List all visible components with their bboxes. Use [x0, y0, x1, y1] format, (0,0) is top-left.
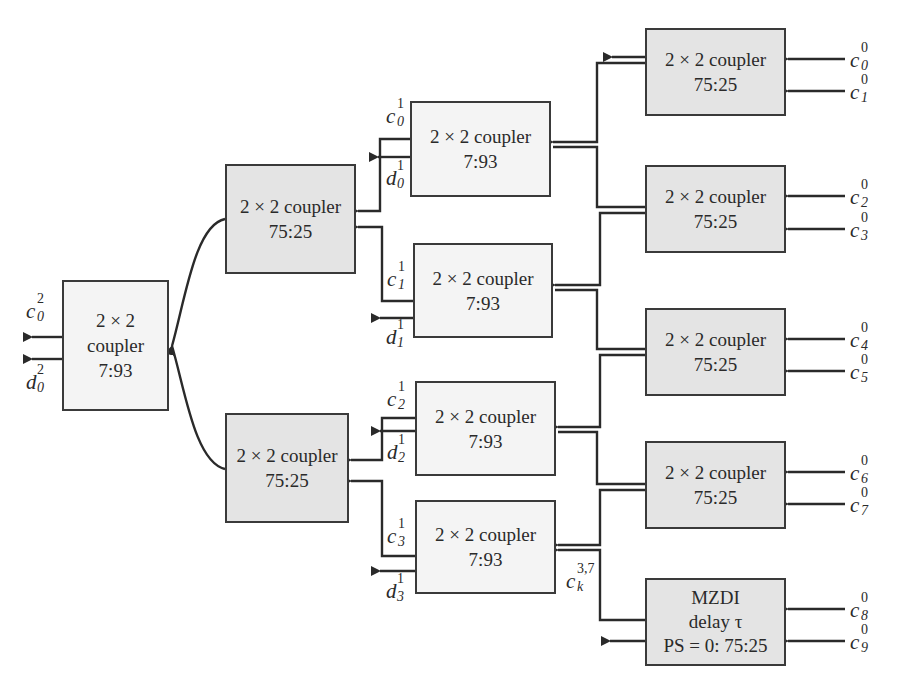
label-c3-1: c13: [387, 526, 396, 547]
label-c4-0: c04: [850, 330, 859, 351]
label-c1-1: c11: [387, 269, 396, 290]
box-line: 2 × 2 coupler: [665, 327, 766, 352]
box-line: 7:93: [469, 547, 503, 572]
label-ck-3-7: c3,7k: [566, 571, 575, 592]
label-c2-0: c02: [850, 187, 859, 208]
box-line: 2 × 2 coupler: [435, 522, 536, 547]
stage0-coupler-0: 2 × 2 coupler 75:25: [645, 28, 786, 116]
box-line: 2 × 2 coupler: [435, 404, 536, 429]
box-line: 75:25: [694, 485, 737, 510]
final-coupler-7-93: 2 × 2 coupler 7:93: [62, 280, 169, 411]
label-c7-0: c07: [850, 495, 859, 516]
box-line: 75:25: [694, 352, 737, 377]
box-line: 7:93: [99, 358, 133, 383]
label-c9-0: c09: [850, 632, 859, 653]
box-line: 2 × 2 coupler: [237, 443, 338, 468]
label-d1-1: d11: [386, 327, 397, 348]
stage1-coupler-0: 2 × 2 coupler 7:93: [410, 101, 551, 197]
box-line: 7:93: [469, 429, 503, 454]
label-c0-2: c20: [26, 301, 35, 322]
box-line: MZDI: [691, 586, 740, 610]
label-d0-1: d10: [386, 168, 397, 189]
stage0-coupler-1: 2 × 2 coupler 75:25: [645, 165, 786, 253]
box-line: 7:93: [464, 149, 498, 174]
label-c5-0: c05: [850, 362, 859, 383]
box-line: PS = 0: 75:25: [663, 634, 767, 658]
label-c1-0: c01: [850, 82, 859, 103]
box-line: 2 × 2: [96, 308, 135, 333]
stage1-coupler-3: 2 × 2 coupler 7:93: [415, 500, 556, 594]
box-line: 75:25: [269, 219, 312, 244]
box-line: 75:25: [694, 72, 737, 97]
box-line: 2 × 2 coupler: [433, 266, 534, 291]
label-c0-1: c10: [386, 106, 395, 127]
label-c3-0: c03: [850, 220, 859, 241]
mzdi-box: MZDI delay τ PS = 0: 75:25: [645, 578, 786, 666]
label-c2-1: c12: [387, 389, 396, 410]
box-line: 2 × 2 coupler: [430, 124, 531, 149]
stage0-coupler-2: 2 × 2 coupler 75:25: [645, 308, 786, 396]
stage1-coupler-1: 2 × 2 coupler 7:93: [413, 243, 553, 338]
label-c0-0: c00: [850, 50, 859, 71]
box-line: 75:25: [265, 468, 308, 493]
box-line: 2 × 2 coupler: [240, 194, 341, 219]
stage2-coupler-top: 2 × 2 coupler 75:25: [225, 164, 356, 274]
box-line: coupler: [87, 333, 144, 358]
label-d2-1: d12: [387, 442, 398, 463]
label-c6-0: c06: [850, 463, 859, 484]
stage1-coupler-2: 2 × 2 coupler 7:93: [415, 381, 556, 476]
label-d0-2: d20: [26, 372, 37, 393]
box-line: 7:93: [466, 291, 500, 316]
stage0-coupler-3: 2 × 2 coupler 75:25: [645, 441, 786, 529]
box-line: 2 × 2 coupler: [665, 184, 766, 209]
box-line: 2 × 2 coupler: [665, 460, 766, 485]
stage2-coupler-bottom: 2 × 2 coupler 75:25: [225, 413, 349, 523]
label-c8-0: c08: [850, 600, 859, 621]
label-d3-1: d13: [386, 581, 397, 602]
box-line: 75:25: [694, 209, 737, 234]
box-line: 2 × 2 coupler: [665, 47, 766, 72]
box-line: delay τ: [689, 610, 743, 634]
